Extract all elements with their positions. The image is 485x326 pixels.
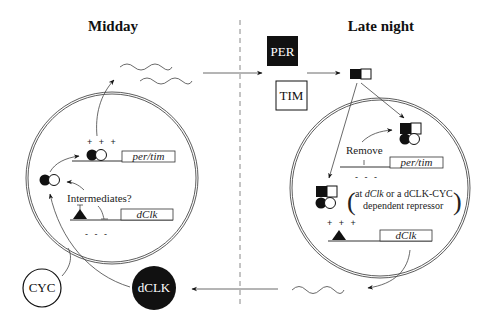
midday-binding-arrow — [50, 156, 79, 172]
title-midday: Midday — [88, 18, 139, 34]
late-night-per-tim-label: per/tim — [400, 156, 433, 168]
midday-inhibition-mark — [77, 205, 83, 210]
tim-protein: TIM — [276, 81, 307, 110]
late-night-per-tim-gene: per/tim — [340, 156, 443, 168]
circadian-clock-diagram: Midday Late night per/tim + + + Intermed… — [0, 0, 485, 326]
svg-text:): ) — [453, 187, 462, 216]
dclk-mrna-wave — [292, 287, 344, 294]
midday-activator-triangle — [73, 209, 87, 219]
cyc-protein: CYC — [23, 269, 61, 307]
nuclear-entry-arrow-2 — [329, 83, 357, 178]
midday-dclk-label: dClk — [137, 208, 159, 220]
svg-text:dependent repressor: dependent repressor — [363, 200, 444, 211]
midday-repression-signs: - - - — [85, 229, 109, 239]
midday-clk-cyc-dimer-bound — [87, 150, 107, 161]
dclk-protein: dCLK — [132, 266, 176, 310]
late-night-repression-signs: - - - — [355, 172, 379, 182]
midday-per-tim-label: per/tim — [132, 150, 165, 162]
midday-activation-signs: + + + — [87, 137, 118, 147]
midday-transcription-arrow — [97, 80, 114, 136]
late-night-repressor-complex-upper — [400, 123, 422, 145]
dclk-import-arrow — [50, 194, 130, 287]
remove-label: Remove — [346, 144, 383, 156]
late-night-repressor-complex-lower — [316, 186, 338, 209]
repressor-note: ( at dClk or a dCLK-CYC dependent repres… — [347, 187, 462, 216]
midday-intermediates-arrow — [67, 182, 84, 190]
svg-text:at dClk or a dCLK-CYC: at dClk or a dCLK-CYC — [355, 188, 453, 199]
dclk-transcription-arrow — [368, 250, 410, 288]
per-protein: PER — [267, 36, 298, 66]
late-night-activator-triangle — [332, 230, 346, 240]
svg-text:CYC: CYC — [29, 280, 56, 295]
midday-intermediates-label: Intermediates? — [67, 192, 132, 204]
per-mrna-wave — [120, 64, 172, 70]
title-late-night: Late night — [348, 18, 414, 34]
late-night-activation-signs: + + + — [327, 218, 358, 228]
late-night-dclk-label: dClk — [396, 229, 418, 241]
remove-arrow — [362, 130, 392, 142]
svg-text:TIM: TIM — [280, 88, 304, 103]
midday-clk-cyc-dimer-free — [40, 175, 60, 186]
svg-text:dCLK: dCLK — [138, 280, 171, 295]
svg-text:PER: PER — [271, 44, 295, 59]
tim-mrna-wave — [140, 78, 192, 84]
per-tim-complex — [350, 69, 371, 79]
midday-repression-bar — [98, 206, 108, 219]
